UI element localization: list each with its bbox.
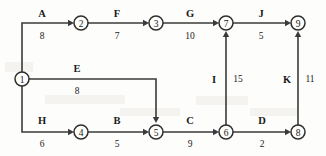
- node-label-8: 8: [296, 128, 301, 138]
- activity-network-graph: 123456789 A8F7G10J5E8H6B5C9D2I15K11: [0, 0, 326, 156]
- edge-name-C: C: [186, 115, 194, 126]
- edge-weight-J: 5: [259, 31, 264, 41]
- arrowhead-F: [143, 20, 149, 26]
- arrowhead-A: [68, 20, 74, 26]
- edge-path-A: [22, 23, 72, 72]
- edge-weight-G: 10: [185, 31, 195, 41]
- node-4[interactable]: 4: [74, 125, 88, 139]
- node-label-3: 3: [154, 19, 159, 29]
- node-8[interactable]: 8: [291, 125, 305, 139]
- node-7[interactable]: 7: [219, 16, 233, 30]
- edge-weight-B: 5: [115, 139, 120, 149]
- edge-path-E: [29, 79, 156, 121]
- edges-layer: [22, 23, 298, 132]
- arrowhead-K: [295, 31, 301, 37]
- edge-weight-E: 8: [75, 86, 80, 96]
- node-3[interactable]: 3: [149, 16, 163, 30]
- edge-name-I: I: [212, 74, 216, 85]
- arrowhead-G: [213, 20, 219, 26]
- edge-weight-A: 8: [40, 31, 45, 41]
- node-1[interactable]: 1: [15, 72, 29, 86]
- edge-weight-F: 7: [115, 31, 120, 41]
- edge-name-G: G: [186, 8, 194, 19]
- node-5[interactable]: 5: [149, 125, 163, 139]
- node-2[interactable]: 2: [74, 16, 88, 30]
- edge-name-H: H: [38, 115, 46, 126]
- edge-name-F: F: [114, 8, 120, 19]
- node-6[interactable]: 6: [219, 125, 233, 139]
- node-label-7: 7: [224, 19, 229, 29]
- node-label-2: 2: [79, 19, 84, 29]
- edge-name-D: D: [258, 115, 266, 126]
- arrowhead-E: [153, 117, 159, 123]
- edge-weight-I: 15: [233, 74, 243, 84]
- edge-path-H: [22, 86, 72, 132]
- edge-name-A: A: [38, 8, 46, 19]
- edge-name-J: J: [258, 8, 263, 19]
- arrowhead-H: [68, 129, 74, 135]
- arrowhead-B: [143, 129, 149, 135]
- edge-name-B: B: [113, 115, 120, 126]
- edge-weight-C: 9: [188, 139, 193, 149]
- arrowhead-D: [285, 129, 291, 135]
- edge-weight-H: 6: [40, 139, 45, 149]
- arrowhead-J: [285, 20, 291, 26]
- arrowhead-C: [213, 129, 219, 135]
- node-label-5: 5: [154, 128, 159, 138]
- node-label-1: 1: [20, 75, 25, 85]
- diagram-canvas: 123456789 A8F7G10J5E8H6B5C9D2I15K11: [0, 0, 326, 156]
- edge-name-K: K: [283, 74, 292, 85]
- edge-weight-D: 2: [260, 139, 265, 149]
- node-label-6: 6: [224, 128, 229, 138]
- node-9[interactable]: 9: [291, 16, 305, 30]
- node-label-9: 9: [296, 19, 301, 29]
- node-label-4: 4: [79, 128, 84, 138]
- edge-name-E: E: [73, 63, 80, 74]
- edge-weight-K: 11: [305, 74, 314, 84]
- arrowhead-I: [223, 31, 229, 37]
